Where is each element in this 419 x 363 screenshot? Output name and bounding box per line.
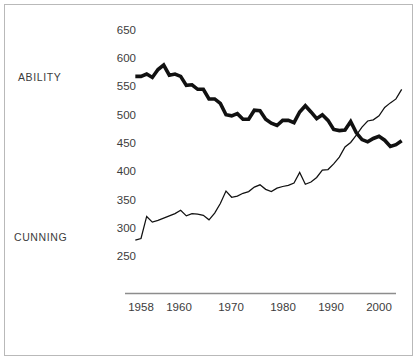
- x-tick-1960: 1960: [166, 301, 192, 313]
- y-tick-300: 300: [117, 222, 136, 234]
- line-chart: 650 600 550 500 450 400 350 300 250 ABIL…: [0, 0, 419, 363]
- y-tick-600: 600: [117, 52, 136, 64]
- y-tick-350: 350: [117, 194, 136, 206]
- x-axis-tick-labels: 1958 1960 1970 1980 1990 2000: [128, 301, 392, 313]
- y-tick-550: 550: [117, 80, 136, 92]
- series-line-cunning: [135, 89, 401, 240]
- series-label-ability: ABILITY: [18, 71, 61, 83]
- x-tick-1980: 1980: [270, 301, 296, 313]
- y-axis-tick-labels: 650 600 550 500 450 400 350 300 250: [117, 24, 136, 262]
- x-tick-1970: 1970: [218, 301, 244, 313]
- chart-figure: 650 600 550 500 450 400 350 300 250 ABIL…: [0, 0, 419, 363]
- y-tick-250: 250: [117, 250, 136, 262]
- y-tick-450: 450: [117, 137, 136, 149]
- series-label-cunning: CUNNING: [14, 231, 67, 243]
- x-tick-1958: 1958: [128, 301, 154, 313]
- y-tick-650: 650: [117, 24, 136, 36]
- y-tick-400: 400: [117, 165, 136, 177]
- y-tick-500: 500: [117, 109, 136, 121]
- series-line-ability: [135, 65, 401, 146]
- x-tick-2000: 2000: [366, 301, 392, 313]
- x-tick-1990: 1990: [318, 301, 344, 313]
